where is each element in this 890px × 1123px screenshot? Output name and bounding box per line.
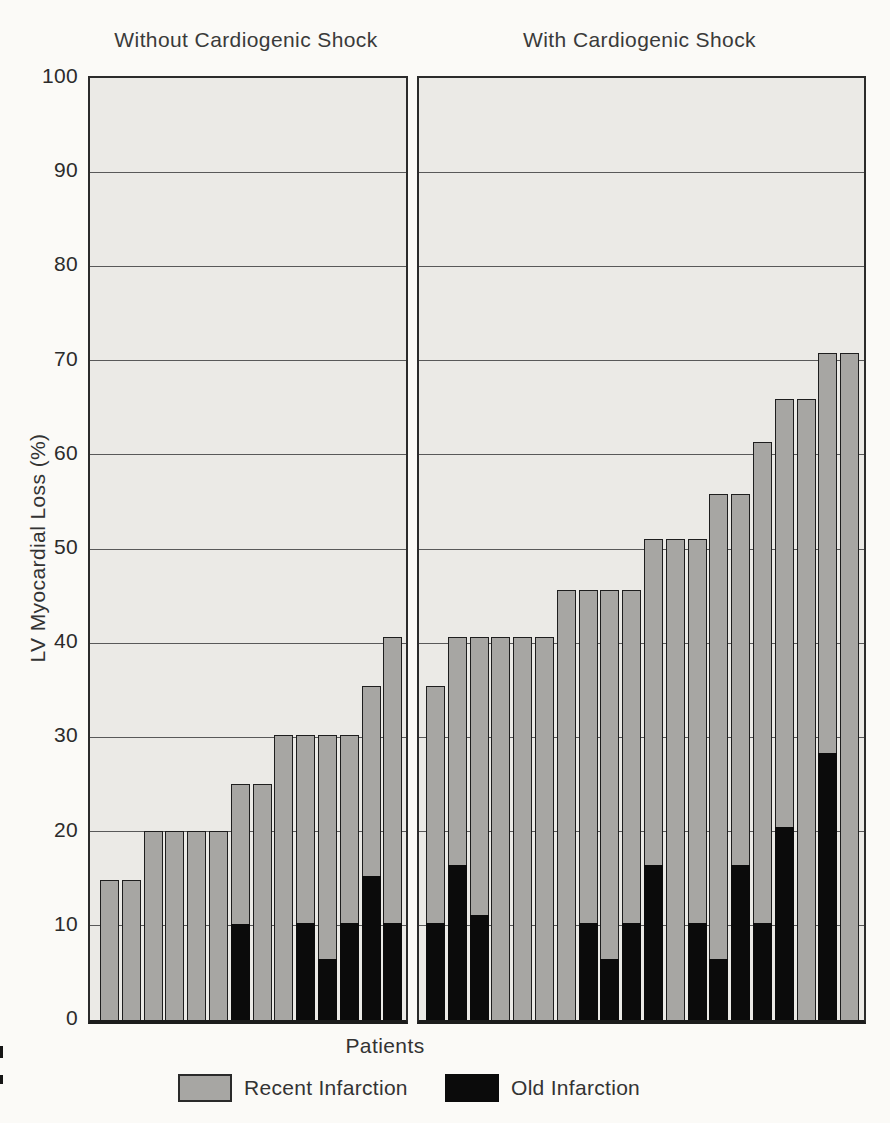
- y-tick-label-100: 100: [18, 63, 78, 89]
- old-infarction-segment: [340, 923, 359, 1020]
- patient-bar: [579, 590, 598, 1020]
- patient-bar: [274, 735, 293, 1020]
- patient-bar: [165, 831, 184, 1020]
- figure: Without Cardiogenic Shock With Cardiogen…: [0, 0, 890, 1123]
- old-infarction-segment: [622, 923, 641, 1020]
- old-infarction-segment: [753, 923, 772, 1020]
- y-tick-label-20: 20: [18, 817, 78, 843]
- y-tick-label-40: 40: [18, 628, 78, 654]
- old-infarction-segment: [818, 753, 837, 1020]
- patient-bar: [318, 735, 337, 1020]
- recent-infarction-swatch: [178, 1074, 232, 1102]
- patient-bar: [122, 880, 141, 1020]
- page-edge-mark: [0, 1075, 3, 1084]
- patient-bar: [426, 686, 445, 1020]
- y-tick-label-10: 10: [18, 911, 78, 937]
- legend-item-old-infarction: Old Infarction: [445, 1074, 640, 1102]
- old-infarction-segment: [470, 915, 489, 1021]
- patient-bar: [231, 784, 250, 1021]
- old-infarction-segment: [644, 865, 663, 1020]
- x-axis-label: Patients: [260, 1034, 510, 1058]
- y-tick-label-50: 50: [18, 534, 78, 560]
- legend-label-recent: Recent Infarction: [244, 1076, 408, 1100]
- patient-bar: [513, 637, 532, 1020]
- gridline-50: [90, 549, 406, 550]
- patient-bar: [144, 831, 163, 1020]
- old-infarction-segment: [231, 924, 250, 1020]
- y-tick-label-90: 90: [18, 157, 78, 183]
- patient-bar: [709, 494, 728, 1020]
- patient-bar: [622, 590, 641, 1020]
- right-panel-title: With Cardiogenic Shock: [417, 28, 862, 52]
- patient-bar: [666, 539, 685, 1020]
- gridline-80: [90, 266, 406, 267]
- old-infarction-segment: [775, 827, 794, 1020]
- old-infarction-segment: [731, 865, 750, 1020]
- gridline-90: [419, 172, 864, 173]
- y-tick-label-0: 0: [18, 1005, 78, 1031]
- gridline-70: [90, 360, 406, 361]
- patient-bar: [688, 539, 707, 1020]
- gridline-60: [90, 454, 406, 455]
- plot-panel-without-shock: [88, 76, 408, 1024]
- old-infarction-segment: [579, 923, 598, 1020]
- patient-bar: [187, 831, 206, 1020]
- patient-bar: [731, 494, 750, 1020]
- gridline-90: [90, 172, 406, 173]
- gridline-80: [419, 266, 864, 267]
- patient-bar: [818, 353, 837, 1020]
- old-infarction-swatch: [445, 1074, 499, 1102]
- patient-bar: [644, 539, 663, 1020]
- patient-bar: [557, 590, 576, 1020]
- plot-panel-with-shock: [417, 76, 866, 1024]
- legend-label-old: Old Infarction: [511, 1076, 640, 1100]
- y-tick-label-30: 30: [18, 722, 78, 748]
- patient-bar: [340, 735, 359, 1020]
- old-infarction-segment: [362, 876, 381, 1020]
- patient-bar: [840, 353, 859, 1020]
- old-infarction-segment: [318, 959, 337, 1020]
- patient-bar: [448, 637, 467, 1020]
- patient-bar: [209, 831, 228, 1020]
- y-tick-label-70: 70: [18, 346, 78, 372]
- patient-bar: [296, 735, 315, 1020]
- left-panel-title: Without Cardiogenic Shock: [88, 28, 404, 52]
- legend-item-recent-infarction: Recent Infarction: [178, 1074, 408, 1102]
- old-infarction-segment: [448, 865, 467, 1020]
- patient-bar: [753, 442, 772, 1020]
- old-infarction-segment: [426, 923, 445, 1020]
- page-edge-mark: [0, 1046, 3, 1058]
- patient-bar: [775, 399, 794, 1020]
- patient-bar: [797, 399, 816, 1020]
- patient-bar: [253, 784, 272, 1021]
- gridline-70: [419, 360, 864, 361]
- patient-bar: [600, 590, 619, 1020]
- old-infarction-segment: [709, 959, 728, 1020]
- old-infarction-segment: [296, 923, 315, 1020]
- old-infarction-segment: [383, 923, 402, 1020]
- y-tick-label-60: 60: [18, 440, 78, 466]
- patient-bar: [491, 637, 510, 1020]
- patient-bar: [362, 686, 381, 1020]
- patient-bar: [100, 880, 119, 1020]
- patient-bar: [470, 637, 489, 1020]
- old-infarction-segment: [688, 923, 707, 1020]
- patient-bar: [535, 637, 554, 1020]
- patient-bar: [383, 637, 402, 1020]
- y-tick-label-80: 80: [18, 251, 78, 277]
- gridline-40: [90, 643, 406, 644]
- old-infarction-segment: [600, 959, 619, 1020]
